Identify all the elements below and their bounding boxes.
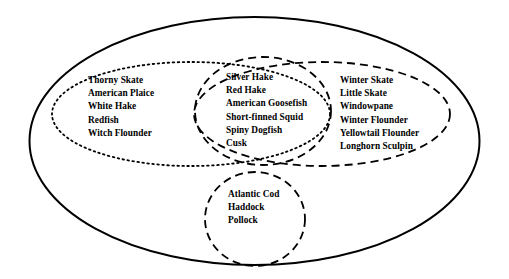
species-label: Winter Skate xyxy=(340,74,419,87)
species-label: White Hake xyxy=(88,100,154,113)
venn-diagram: Thorny Skate American Plaice White Hake … xyxy=(0,0,509,279)
species-label: Short-finned Squid xyxy=(226,111,307,124)
species-label: Haddock xyxy=(228,201,279,214)
species-label: Little Skate xyxy=(340,87,419,100)
species-label: Thorny Skate xyxy=(88,74,154,87)
species-label: American Goosefish xyxy=(226,97,307,110)
bottom-species-group: Atlantic Cod Haddock Pollock xyxy=(228,188,279,228)
center-species-group: Silver Hake Red Hake American Goosefish … xyxy=(226,71,307,150)
species-label: Cusk xyxy=(226,137,307,150)
species-label: Silver Hake xyxy=(226,71,307,84)
species-label: Longhorn Sculpin xyxy=(340,140,419,153)
species-label: Yellowtail Flounder xyxy=(340,127,419,140)
species-label: Spiny Dogfish xyxy=(226,124,307,137)
species-label: Pollock xyxy=(228,214,279,227)
right-species-group: Winter Skate Little Skate Windowpane Win… xyxy=(340,74,419,153)
species-label: Witch Flounder xyxy=(88,127,154,140)
species-label: Redfish xyxy=(88,114,154,127)
species-label: Windowpane xyxy=(340,100,419,113)
species-label: Winter Flounder xyxy=(340,114,419,127)
left-species-group: Thorny Skate American Plaice White Hake … xyxy=(88,74,154,140)
species-label: American Plaice xyxy=(88,87,154,100)
species-label: Red Hake xyxy=(226,84,307,97)
species-label: Atlantic Cod xyxy=(228,188,279,201)
